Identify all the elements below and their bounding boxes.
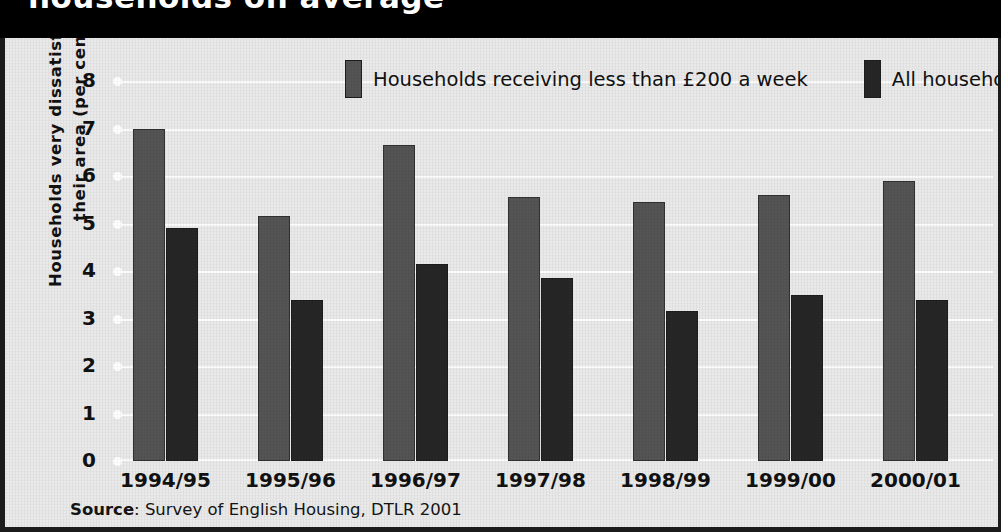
bar-1995-96-all-households — [291, 300, 323, 462]
x-axis-label-2000-01: 2000/01 — [861, 468, 971, 492]
bar-1997-98-all-households — [541, 278, 573, 461]
y-tick-dot-8 — [113, 77, 122, 86]
x-axis-label-1994-95: 1994/95 — [111, 468, 221, 492]
bar-1994-95-households-receiving-less-than-200-a-week — [133, 129, 165, 462]
source-label: Source — [70, 500, 134, 519]
legend-label-low-income-households: Households receiving less than £200 a we… — [373, 68, 808, 91]
source-text: : Survey of English Housing, DTLR 2001 — [134, 500, 462, 519]
bar-2000-01-households-receiving-less-than-200-a-week — [883, 181, 915, 461]
bar-1997-98-households-receiving-less-than-200-a-week — [508, 197, 540, 461]
frame-border-bottom — [0, 527, 1001, 532]
chart-legend: Households receiving less than £200 a we… — [345, 60, 1001, 98]
y-tick-dot-6 — [113, 172, 122, 181]
y-tick-dot-2 — [113, 362, 122, 371]
y-axis-title-line1: Households very dissatisfied with — [46, 0, 65, 287]
y-tick-dot-4 — [113, 267, 122, 276]
legend-item-all-households: All households — [864, 60, 1001, 98]
y-tick-dot-7 — [113, 125, 122, 134]
bar-1998-99-all-households — [666, 311, 698, 461]
bar-1996-97-households-receiving-less-than-200-a-week — [383, 145, 415, 461]
y-tick-dot-1 — [113, 410, 122, 419]
legend-swatch-low-income-households — [345, 60, 362, 98]
x-axis-label-1998-99: 1998/99 — [611, 468, 721, 492]
gridline-5 — [118, 224, 993, 226]
legend-swatch-all-households — [864, 60, 881, 98]
bar-2000-01-all-households — [916, 300, 948, 462]
bar-1998-99-households-receiving-less-than-200-a-week — [633, 202, 665, 461]
x-axis-label-1996-97: 1996/97 — [361, 468, 471, 492]
bar-1995-96-households-receiving-less-than-200-a-week — [258, 216, 290, 461]
y-tick-dot-5 — [113, 220, 122, 229]
gridline-6 — [118, 176, 993, 178]
y-tick-label-1: 1 — [0, 401, 118, 425]
x-axis-labels: 1994/951995/961996/971997/981998/991999/… — [118, 468, 993, 498]
plot-area — [118, 81, 993, 461]
chart-page: households on average Households receivi… — [0, 0, 1001, 532]
y-axis-title: Households very dissatisfied with their … — [44, 0, 92, 310]
gridline-4 — [118, 271, 993, 273]
y-tick-dot-0 — [113, 457, 122, 466]
page-title: households on average — [28, 0, 445, 15]
bar-1996-97-all-households — [416, 264, 448, 461]
frame-border-left — [0, 38, 5, 532]
legend-label-all-households: All households — [892, 68, 1001, 91]
bar-1999-00-households-receiving-less-than-200-a-week — [758, 195, 790, 461]
y-axis-title-line2: their area (per cent) — [70, 18, 89, 221]
y-tick-label-0: 0 — [0, 448, 118, 472]
x-axis-label-1999-00: 1999/00 — [736, 468, 846, 492]
y-tick-label-2: 2 — [0, 353, 118, 377]
bar-1994-95-all-households — [166, 228, 198, 461]
y-tick-dot-3 — [113, 315, 122, 324]
source-note: Source: Survey of English Housing, DTLR … — [70, 500, 462, 519]
gridline-7 — [118, 129, 993, 131]
title-band: households on average — [0, 0, 1001, 38]
x-axis-label-1997-98: 1997/98 — [486, 468, 596, 492]
x-axis-label-1995-96: 1995/96 — [236, 468, 346, 492]
bar-1999-00-all-households — [791, 295, 823, 461]
legend-item-low-income-households: Households receiving less than £200 a we… — [345, 60, 808, 98]
